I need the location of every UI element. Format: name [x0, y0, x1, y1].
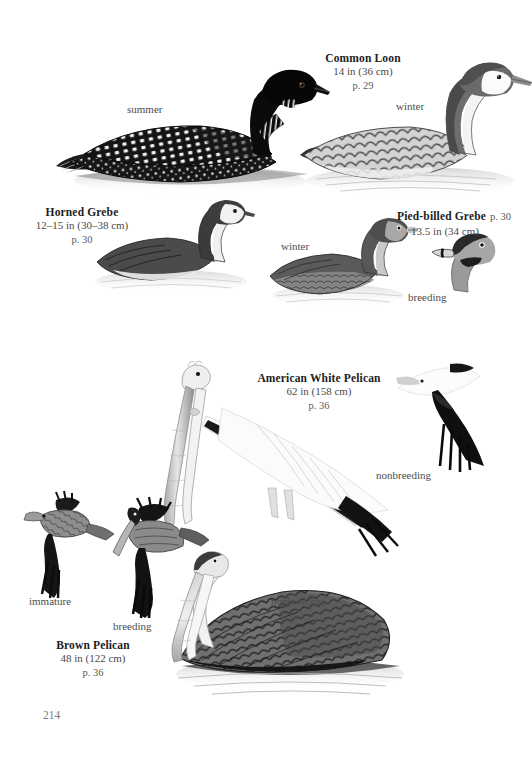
- species-page-horned-grebe: p. 30: [8, 233, 156, 246]
- species-size-pied-billed-grebe: 13.5 in (34 cm): [381, 225, 527, 239]
- annotation-brown-pelican-nonbreeding: nonbreeding: [271, 595, 326, 608]
- illustration-common-loon-summer: [40, 58, 330, 208]
- illustration-white-pelican-nonbreeding: [392, 362, 524, 472]
- species-size-common-loon: 14 in (36 cm): [304, 65, 422, 79]
- species-label-horned-grebe: Horned Grebe 12–15 in (30–38 cm) p. 30: [8, 205, 156, 246]
- species-page-pied-billed-grebe: p. 30: [490, 211, 511, 222]
- species-page-american-white-pelican: p. 36: [243, 399, 395, 412]
- species-label-common-loon: Common Loon 14 in (36 cm) p. 29: [304, 51, 422, 92]
- species-name-pied-billed-grebe: Pied-billed Grebe: [397, 210, 486, 222]
- annotation-pied-billed-grebe-breeding: breeding: [408, 291, 446, 304]
- annotation-pied-billed-grebe-winter: winter: [281, 240, 309, 253]
- species-name-common-loon: Common Loon: [304, 51, 422, 65]
- annotation-loon-summer: summer: [127, 103, 162, 116]
- illustration-pied-billed-grebe-breeding-head: [408, 230, 500, 300]
- illustration-white-pelican-head-detail: [160, 360, 240, 540]
- species-page-brown-pelican: p. 36: [25, 666, 161, 679]
- illustration-white-pelican-flight: [196, 400, 406, 560]
- species-name-brown-pelican: Brown Pelican: [25, 638, 161, 652]
- species-label-american-white-pelican: American White Pelican 62 in (158 cm) p.…: [243, 371, 395, 412]
- annotation-brown-pelican-immature: immature: [29, 595, 71, 608]
- species-size-horned-grebe: 12–15 in (30–38 cm): [8, 219, 156, 233]
- annotation-brown-pelican-breeding: breeding: [113, 620, 151, 633]
- species-name-horned-grebe: Horned Grebe: [8, 205, 156, 219]
- species-name-line-pied-billed-grebe: Pied-billed Grebe p. 30: [381, 205, 527, 225]
- species-size-brown-pelican: 48 in (122 cm): [25, 652, 161, 666]
- species-label-pied-billed-grebe: Pied-billed Grebe p. 30 13.5 in (34 cm): [381, 205, 527, 239]
- annotation-loon-winter: winter: [396, 100, 424, 113]
- illustration-brown-pelican-nonbreeding-swimming: [160, 548, 410, 708]
- illustration-brown-pelican-immature: [22, 492, 122, 602]
- species-label-brown-pelican: Brown Pelican 48 in (122 cm) p. 36: [25, 638, 161, 679]
- species-size-american-white-pelican: 62 in (158 cm): [243, 385, 395, 399]
- page-number: 214: [43, 709, 60, 721]
- illustration-brown-pelican-breeding: [105, 500, 215, 620]
- annotation-white-pelican-nonbreeding: nonbreeding: [376, 469, 431, 482]
- field-guide-page: Common Loon 14 in (36 cm) p. 29 summer w…: [0, 0, 532, 767]
- species-page-common-loon: p. 29: [304, 79, 422, 92]
- species-name-american-white-pelican: American White Pelican: [243, 371, 395, 385]
